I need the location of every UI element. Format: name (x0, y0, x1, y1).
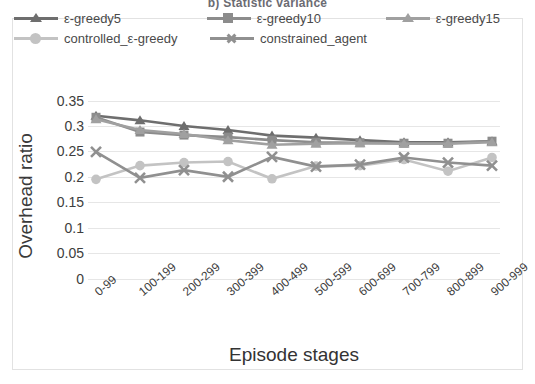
chart-plot: Overhead ratio 0.350.30.250.20.150.10.05… (0, 0, 535, 384)
x-axis-tick-label: 700-799 (400, 260, 443, 299)
x-axis-tick-label: 100-199 (136, 260, 179, 299)
x-axis-title: Episode stages (88, 344, 500, 366)
x-axis-tick-label: 0-99 (92, 273, 119, 299)
x-axis-tick-label: 500-599 (312, 260, 355, 299)
x-axis-tick-label: 400-499 (268, 260, 311, 299)
x-axis-tick-label: 300-399 (224, 260, 267, 299)
x-axis-tick-label: 200-299 (180, 260, 223, 299)
x-axis-tick-label: 800-899 (444, 260, 487, 299)
x-axis-ticks: 0-99100-199200-299300-399400-499500-5996… (88, 0, 508, 384)
x-axis-tick-label: 600-699 (356, 260, 399, 299)
